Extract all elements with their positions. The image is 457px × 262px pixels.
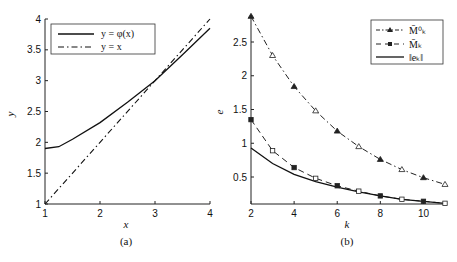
chart-b: 0.511.522.5 246810 M̄⁰ₖ M̄ₖ ‖eₖ‖ k e (b) (213, 13, 448, 248)
caption-a: (a) (120, 235, 133, 248)
svg-text:2.5: 2.5 (27, 106, 41, 117)
svg-text:4: 4 (291, 208, 297, 219)
svg-text:10: 10 (418, 208, 430, 219)
y-axis-label-b: e (213, 109, 225, 114)
chart-a: 11.522.533.54 1234 y = φ(x) y = x x y (a… (4, 14, 213, 249)
svg-text:4: 4 (35, 14, 41, 25)
svg-text:1.5: 1.5 (233, 104, 247, 115)
svg-text:8: 8 (378, 208, 384, 219)
svg-text:1: 1 (241, 138, 247, 149)
svg-text:1: 1 (35, 199, 41, 210)
svg-text:0.5: 0.5 (233, 172, 247, 183)
svg-text:1.5: 1.5 (27, 168, 41, 179)
svg-text:2: 2 (35, 137, 41, 148)
x-axis-label-a: x (123, 218, 129, 230)
series-error-norm (251, 148, 445, 203)
svg-text:2: 2 (97, 208, 103, 219)
x-axis-label-b: k (345, 218, 351, 230)
legend-label-phi: y = φ(x) (101, 28, 134, 40)
legend-label-error-norm: ‖eₖ‖ (409, 52, 423, 63)
svg-text:3: 3 (35, 75, 41, 86)
svg-text:2.5: 2.5 (233, 37, 247, 48)
legend-label-m: M̄ₖ (409, 39, 422, 50)
y-axis-label-a: y (4, 111, 16, 117)
figure: 11.522.533.54 1234 y = φ(x) y = x x y (a… (0, 0, 457, 262)
svg-text:6: 6 (334, 208, 340, 219)
svg-text:3.5: 3.5 (27, 44, 41, 55)
svg-text:3: 3 (152, 208, 158, 219)
legend-label-m0: M̄⁰ₖ (409, 25, 426, 36)
series-m (251, 120, 445, 204)
legend-b: M̄⁰ₖ M̄ₖ ‖eₖ‖ (371, 20, 443, 64)
svg-text:2: 2 (248, 208, 254, 219)
legend-label-identity: y = x (101, 41, 122, 52)
svg-text:2: 2 (241, 70, 247, 81)
caption-b: (b) (341, 235, 354, 248)
legend-a: y = φ(x) y = x (51, 24, 155, 54)
svg-text:1: 1 (42, 208, 48, 219)
svg-text:4: 4 (207, 208, 213, 219)
